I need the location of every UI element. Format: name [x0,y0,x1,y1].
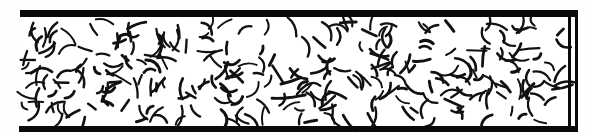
fiber-segment [197,51,215,52]
fiber-segment [272,98,290,99]
fiber-segment [398,88,406,89]
fiber-segment [186,40,187,53]
figure-root [0,0,590,136]
fiber-segment [110,82,121,83]
fiber-segment [226,42,227,54]
fiber-segment [150,79,151,96]
channel-diagram [0,0,590,136]
fiber-segment [340,22,356,23]
fiber-segment [481,48,489,49]
